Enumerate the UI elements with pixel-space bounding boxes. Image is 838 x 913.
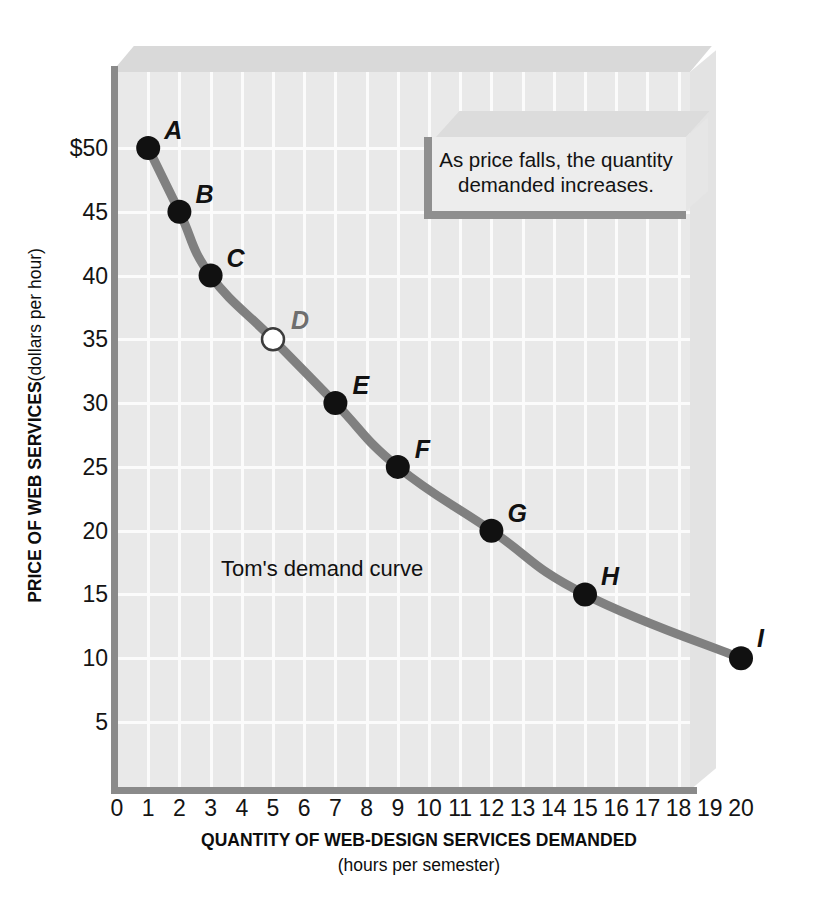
demand-curve-figure: $5045403530252015105 0123456789101112131… <box>0 0 838 913</box>
y-axis-tick-label: 40 <box>38 265 108 288</box>
gridline-vertical <box>147 72 150 790</box>
gridline-horizontal <box>117 721 690 724</box>
gridline-vertical <box>241 72 244 790</box>
y-axis-tick-label: 45 <box>38 201 108 224</box>
data-point-label-h: H <box>601 564 619 589</box>
chart-slab-top-bevel <box>112 46 712 72</box>
y-axis-title-sub: (dollars per hour) <box>25 248 45 381</box>
y-axis-tick-label: 25 <box>38 456 108 479</box>
gridline-horizontal <box>117 657 690 660</box>
gridline-horizontal <box>117 530 690 533</box>
y-axis-title-main: PRICE OF WEB SERVICES <box>25 381 45 602</box>
gridline-horizontal <box>117 338 690 341</box>
callout-box: As price falls, the quantity demanded in… <box>424 137 686 219</box>
callout-text: As price falls, the quantity demanded in… <box>435 147 683 201</box>
gridline-horizontal <box>117 402 690 405</box>
curve-caption-label: Tom's demand curve <box>221 556 423 582</box>
y-axis-tick-label: 30 <box>38 392 108 415</box>
data-point-label-b: B <box>195 182 213 207</box>
x-axis-tick-label: 20 <box>721 797 761 820</box>
callout-annotation: As price falls, the quantity demanded in… <box>424 111 696 239</box>
data-point-label-d: D <box>291 308 309 333</box>
data-point-marker <box>729 646 753 670</box>
gridline-vertical <box>334 72 337 790</box>
gridline-vertical <box>366 72 369 790</box>
x-axis-line <box>111 787 697 794</box>
gridline-horizontal <box>117 593 690 596</box>
y-axis-tick-label: $50 <box>38 137 108 160</box>
data-point-label-g: G <box>507 501 526 526</box>
data-point-label-e: E <box>352 373 369 398</box>
callout-line-1: As price falls, the quantity <box>439 148 673 171</box>
gridline-vertical <box>303 72 306 790</box>
gridline-vertical <box>272 72 275 790</box>
y-axis-tick-label: 10 <box>38 647 108 670</box>
gridline-horizontal <box>117 275 690 278</box>
y-axis-tick-label: 5 <box>38 711 108 734</box>
data-point-label-i: I <box>757 626 764 651</box>
gridline-horizontal <box>117 466 690 469</box>
data-point-label-f: F <box>415 437 430 462</box>
x-axis-title: QUANTITY OF WEB-DESIGN SERVICES DEMANDED <box>0 830 838 851</box>
data-point-label-a: A <box>164 118 182 143</box>
y-axis-tick-label: 35 <box>38 328 108 351</box>
callout-line-2: demanded increases. <box>458 173 654 196</box>
y-axis-tick-label: 20 <box>38 520 108 543</box>
gridline-vertical <box>178 72 181 790</box>
y-axis-line <box>111 66 118 794</box>
x-axis-subtitle: (hours per semester) <box>0 855 838 876</box>
y-axis-tick-label: 15 <box>38 583 108 606</box>
gridline-vertical <box>397 72 400 790</box>
data-point-label-c: C <box>227 246 245 271</box>
y-axis-title: PRICE OF WEB SERVICES(dollars per hour) <box>25 106 46 746</box>
callout-top-bevel <box>436 111 709 137</box>
